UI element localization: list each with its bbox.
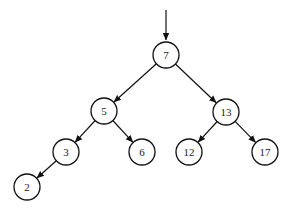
node-label: 2	[24, 181, 30, 193]
node-label: 3	[63, 146, 69, 158]
edge-7-to-13	[175, 64, 216, 103]
edge-13-to-12	[198, 122, 217, 143]
tree-node-7: 7	[153, 42, 179, 68]
tree-node-13: 13	[213, 99, 239, 125]
edge-3-to-2	[37, 161, 56, 178]
nodes-layer: 75133612172	[14, 42, 278, 200]
edge-7-to-5	[114, 64, 156, 102]
tree-node-3: 3	[53, 139, 79, 165]
tree-node-5: 5	[91, 98, 117, 124]
node-label: 13	[221, 106, 233, 118]
tree-node-17: 17	[252, 139, 278, 165]
node-label: 7	[163, 49, 169, 61]
tree-node-2: 2	[14, 174, 40, 200]
node-label: 17	[260, 146, 272, 158]
tree-node-12: 12	[176, 139, 202, 165]
edge-13-to-17	[235, 121, 256, 142]
node-label: 5	[101, 105, 107, 117]
edge-5-to-3	[75, 121, 95, 143]
edge-5-to-6	[113, 121, 133, 143]
node-label: 6	[139, 146, 145, 158]
tree-node-6: 6	[129, 139, 155, 165]
tree-diagram: 75133612172	[0, 0, 295, 210]
node-label: 12	[184, 146, 195, 158]
